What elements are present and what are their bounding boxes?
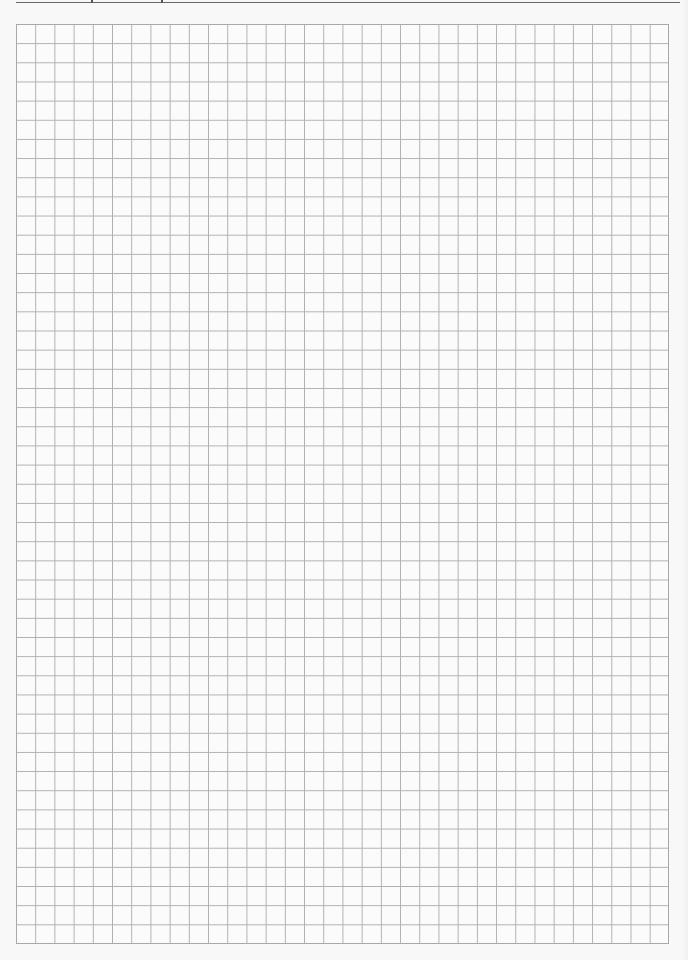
document-page	[0, 0, 688, 960]
header-tick-mark	[161, 0, 163, 3]
header-rule	[16, 2, 680, 3]
graph-paper-grid	[16, 24, 669, 944]
page-edge-shadow	[682, 0, 688, 960]
header-tick-mark	[91, 0, 93, 3]
